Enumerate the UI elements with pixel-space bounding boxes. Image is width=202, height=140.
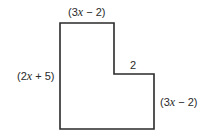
step-side-label: 2 <box>130 60 136 71</box>
l-shape-diagram: (3x − 2) 2 (2x + 5) (3x − 2) <box>0 0 202 140</box>
right-side-label: (3x − 2) <box>160 96 197 108</box>
left-side-label: (2x + 5) <box>17 70 54 82</box>
top-side-label: (3x − 2) <box>68 6 105 18</box>
